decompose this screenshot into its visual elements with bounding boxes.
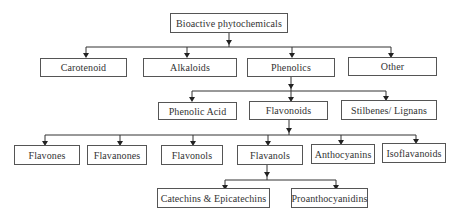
node-carotenoid: Carotenoid <box>40 58 127 77</box>
node-anthocyanins: Anthocyanins <box>311 144 375 164</box>
node-isoflavanoids: Isoflavanoids <box>382 143 446 163</box>
node-flavonoids: Flavonoids <box>249 101 328 120</box>
node-proanthocyanidins: Proanthocyanidins <box>291 188 368 208</box>
node-phenolic-acid: Phenolic Acid <box>158 102 237 120</box>
node-alkaloids: Alkaloids <box>143 58 237 77</box>
node-bioactive-phytochemicals: Bioactive phytochemicals <box>170 13 288 33</box>
node-phenolics: Phenolics <box>247 58 335 77</box>
node-flavonols: Flavonols <box>161 145 223 165</box>
classification-diagram: Bioactive phytochemicals Carotenoid Alka… <box>0 0 460 219</box>
node-stilbenes-lignans: Stilbenes/ Lignans <box>341 100 437 120</box>
node-flavanols: Flavanols <box>237 145 303 165</box>
node-flavanones: Flavanones <box>87 145 147 165</box>
node-catechins-epicatechins: Catechins & Epicatechins <box>157 188 270 208</box>
node-flavones: Flavones <box>14 145 80 165</box>
node-other: Other <box>348 57 437 76</box>
